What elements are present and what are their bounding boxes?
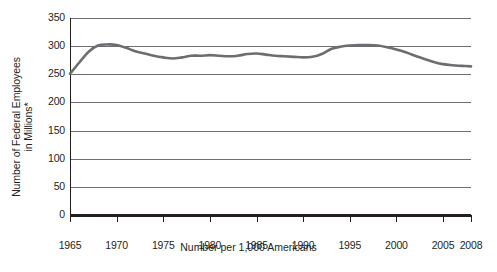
y-tick-label-300: 300 [5,39,65,51]
y-tick-label-100: 100 [5,152,65,164]
y-tick-label-150: 150 [5,124,65,136]
x-axis-title: Number per 1,000 Americans [0,241,497,253]
y-tick-label-200: 200 [5,95,65,107]
y-tick-label-250: 250 [5,67,65,79]
x-tick-mark-1995 [350,215,351,222]
x-tick-mark-1965 [70,215,71,222]
data-series-svg [70,18,471,215]
x-tick-mark-2005 [443,215,444,222]
line-series-path [70,44,471,73]
x-tick-mark-1970 [117,215,118,222]
x-tick-mark-1985 [257,215,258,222]
x-tick-mark-1975 [163,215,164,222]
y-tick-label-50: 50 [5,180,65,192]
x-tick-mark-2008 [471,215,472,222]
chart-figure: Number of Federal Employees in Millions*… [0,0,497,272]
plot-area: 1965197019751980198519901995200020052008 [70,18,471,215]
x-tick-mark-1990 [303,215,304,222]
x-tick-mark-2000 [396,215,397,222]
x-tick-mark-1980 [210,215,211,222]
y-tick-label-0: 0 [5,208,65,220]
y-tick-label-350: 350 [5,11,65,23]
